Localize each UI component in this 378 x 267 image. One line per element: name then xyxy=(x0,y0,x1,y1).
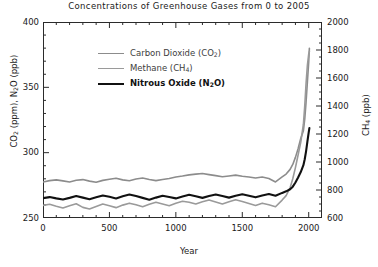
x-tick-1000: 1000 xyxy=(151,223,201,233)
legend-item-0: Carbon Dioxide (CO2) xyxy=(98,46,225,61)
y2-tick-2000: 2000 xyxy=(327,17,349,27)
y-tick-300: 300 xyxy=(0,147,39,157)
legend-swatch-1 xyxy=(98,68,124,69)
x-axis-label: Year xyxy=(0,246,378,256)
y-tick-400: 400 xyxy=(0,17,39,27)
y-tick-250: 250 xyxy=(0,213,39,223)
y2-tick-600: 600 xyxy=(327,213,343,223)
y2-tick-1000: 1000 xyxy=(327,157,349,167)
legend-item-2: Nitrous Oxide (N2O) xyxy=(98,76,225,91)
y2-tick-1200: 1200 xyxy=(327,129,349,139)
chart-root: Concentrations of Greenhouse Gases from … xyxy=(0,0,378,267)
legend-item-1: Methane (CH4) xyxy=(98,61,225,76)
y-axis-left-label: CO2 (ppm), N2O (ppb) xyxy=(9,31,19,171)
x-tick-2000: 2000 xyxy=(284,223,334,233)
x-tick-1500: 1500 xyxy=(217,223,267,233)
y2-tick-1800: 1800 xyxy=(327,45,349,55)
y-tick-350: 350 xyxy=(0,82,39,92)
x-tick-500: 500 xyxy=(84,223,134,233)
y2-tick-1400: 1400 xyxy=(327,101,349,111)
chart-title: Concentrations of Greenhouse Gases from … xyxy=(0,1,378,11)
chart-legend: Carbon Dioxide (CO2)Methane (CH4)Nitrous… xyxy=(98,46,225,91)
legend-label-2: Nitrous Oxide (N2O) xyxy=(130,78,225,88)
x-tick-0: 0 xyxy=(18,223,68,233)
legend-label-0: Carbon Dioxide (CO2) xyxy=(130,48,221,58)
legend-swatch-2 xyxy=(98,83,124,85)
y2-tick-1600: 1600 xyxy=(327,73,349,83)
legend-label-1: Methane (CH4) xyxy=(130,63,193,73)
series-line-2 xyxy=(43,128,309,200)
legend-swatch-0 xyxy=(98,53,124,54)
y2-tick-800: 800 xyxy=(327,185,343,195)
y-axis-right-label: CH4 (ppb) xyxy=(361,55,371,175)
